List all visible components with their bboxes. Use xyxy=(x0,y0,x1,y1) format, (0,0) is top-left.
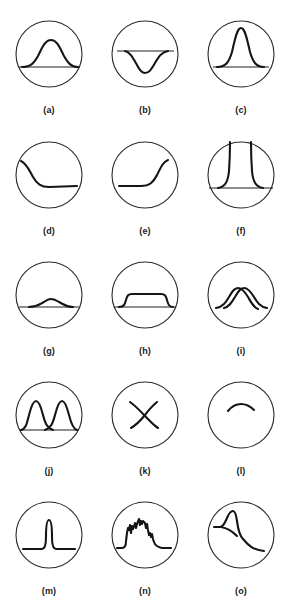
steep-flanks-diagram xyxy=(201,135,281,215)
panel-f: (f) xyxy=(201,135,281,239)
panel-label: (j) xyxy=(9,466,89,476)
separated-peaks-diagram xyxy=(9,375,89,455)
panel-k: (k) xyxy=(105,375,185,479)
ascending-sigmoid-curve xyxy=(119,160,168,186)
arc-diagram xyxy=(201,375,281,455)
circle-outline xyxy=(112,21,178,87)
gaussian-curve xyxy=(22,40,78,67)
secondary-tail-curve xyxy=(221,527,237,536)
panel-label: (g) xyxy=(9,346,89,356)
spike-curve xyxy=(23,520,75,549)
circle-outline xyxy=(208,262,274,328)
panel-label: (m) xyxy=(9,586,89,596)
panel-h: (h) xyxy=(105,255,185,359)
panel-label: (l) xyxy=(201,466,281,476)
panel-label: (d) xyxy=(9,226,89,236)
circle-outline xyxy=(208,142,274,208)
arc-curve xyxy=(228,404,254,411)
left-gaussian-curve xyxy=(216,288,258,309)
panel-label: (i) xyxy=(201,346,281,356)
circle-outline xyxy=(208,21,274,87)
flat-top-diagram xyxy=(105,255,185,335)
skewed-peak-curve xyxy=(214,511,264,551)
circle-outline xyxy=(16,382,82,448)
ascending-sigmoid-diagram xyxy=(105,135,185,215)
noisy-curve xyxy=(117,519,171,548)
panel-i: (i) xyxy=(201,255,281,359)
panel-j: (j) xyxy=(9,375,89,479)
inverted-gaussian-curve xyxy=(125,51,168,73)
panel-label: (h) xyxy=(105,346,185,356)
small-bump-curve xyxy=(29,299,73,307)
circle-outline xyxy=(16,142,82,208)
panel-label: (f) xyxy=(201,226,281,236)
panel-label: (e) xyxy=(105,226,185,236)
panel-label: (o) xyxy=(201,586,281,596)
crossing-lines-diagram xyxy=(105,375,185,455)
panel-m: (m) xyxy=(9,495,89,599)
trapezoid-curve xyxy=(119,294,173,307)
panel-label: (a) xyxy=(9,105,89,115)
panel-g: (g) xyxy=(9,255,89,359)
panel-d: (d) xyxy=(9,135,89,239)
circle-outline xyxy=(16,21,82,87)
tall-gaussian-curve xyxy=(217,28,264,67)
panel-b: (b) xyxy=(105,14,185,118)
left-peak-curve xyxy=(21,401,53,430)
descending-sigmoid-diagram xyxy=(9,135,89,215)
panel-e: (e) xyxy=(105,135,185,239)
circle-outline xyxy=(16,262,82,328)
bell-curve-diagram xyxy=(9,14,89,94)
small-bump-diagram xyxy=(9,255,89,335)
panel-label: (c) xyxy=(201,105,281,115)
skewed-peak-diagram xyxy=(201,495,281,575)
panel-c: (c) xyxy=(201,14,281,118)
panel-a: (a) xyxy=(9,14,89,118)
circle-outline xyxy=(208,382,274,448)
narrow-spike-diagram xyxy=(9,495,89,575)
tall-bell-diagram xyxy=(201,14,281,94)
circle-outline xyxy=(112,502,178,568)
panel-label: (b) xyxy=(105,105,185,115)
left-flank-curve xyxy=(218,142,230,188)
descending-sigmoid-curve xyxy=(21,161,77,187)
overlapping-bells-diagram xyxy=(201,255,281,335)
panel-n: (n) xyxy=(105,495,185,599)
inverted-bell-diagram xyxy=(105,14,185,94)
panel-label: (n) xyxy=(105,586,185,596)
panel-label: (k) xyxy=(105,466,185,476)
noisy-peak-diagram xyxy=(105,495,185,575)
right-peak-curve xyxy=(45,401,77,430)
panel-l: (l) xyxy=(201,375,281,479)
panel-o: (o) xyxy=(201,495,281,599)
circle-outline xyxy=(112,142,178,208)
right-gaussian-curve xyxy=(224,288,267,308)
circle-outline xyxy=(16,502,82,568)
